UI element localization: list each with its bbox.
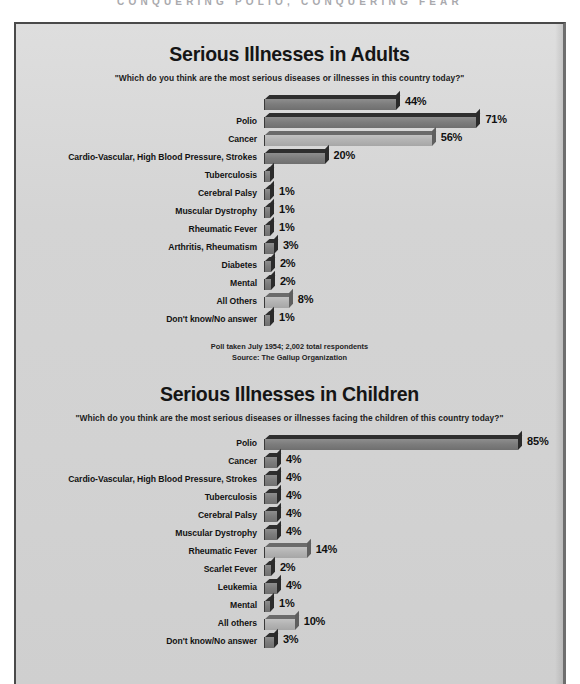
bar-row-label: Tuberculosis — [16, 492, 264, 502]
source-line-org: Source: The Gallup Organization — [16, 353, 563, 364]
bar-plot-area: 1% — [264, 184, 563, 202]
bar-segment — [264, 243, 274, 254]
bar-row: Tuberculosis4% — [16, 488, 563, 506]
bar-plot-area: 2% — [264, 274, 563, 292]
bar-row-label: Cerebral Palsy — [16, 510, 264, 520]
bar-row-label: Diabetes — [16, 260, 264, 270]
bar-row: Tuberculosis — [16, 166, 563, 184]
bar-row: Arthritis, Rheumatism3% — [16, 238, 563, 256]
bar-plot-area: 4% — [264, 452, 563, 470]
bar-row: Muscular Dystrophy4% — [16, 524, 563, 542]
bar-rows: 44%Polio71%Cancer56%Cardio-Vascular, Hig… — [16, 94, 563, 328]
bar-row: Cerebral Palsy1% — [16, 184, 563, 202]
chart-serious-illnesses-children: Serious Illnesses in Children "Which do … — [16, 382, 563, 650]
bar-segment — [264, 117, 476, 128]
bar-row: All Others8% — [16, 292, 563, 310]
bar-segment — [264, 529, 277, 540]
bar-plot-area: 4% — [264, 578, 563, 596]
bar-row-label: Mental — [16, 600, 264, 610]
bar-plot-area: 2% — [264, 256, 563, 274]
bar-segment — [264, 511, 277, 522]
bar-value-label: 2% — [280, 275, 296, 287]
bar-row-label: Muscular Dystrophy — [16, 206, 264, 216]
bar-segment — [264, 261, 271, 272]
bar-value-label: 10% — [304, 615, 325, 627]
bar-row: Polio85% — [16, 434, 563, 452]
bar-row: Cardio-Vascular, High Blood Pressure, St… — [16, 148, 563, 166]
bar-segment — [264, 457, 277, 468]
bar-plot-area: 4% — [264, 488, 563, 506]
bar-plot-area: 71% — [264, 112, 563, 130]
bar-segment — [264, 439, 518, 450]
bar-row: All others10% — [16, 614, 563, 632]
bar-row: Muscular Dystrophy1% — [16, 202, 563, 220]
bar-row-label: Cardio-Vascular, High Blood Pressure, St… — [16, 152, 264, 162]
bar-row: Cancer4% — [16, 452, 563, 470]
bar-plot-area: 2% — [264, 560, 563, 578]
bar-plot-area: 1% — [264, 202, 563, 220]
bar-segment — [264, 189, 270, 200]
bar-plot-area: 8% — [264, 292, 563, 310]
source-line-poll: Poll taken July 1954; 2,002 total respon… — [16, 342, 563, 353]
bar-plot-area: 14% — [264, 542, 563, 560]
chart-serious-illnesses-adults: Serious Illnesses in Adults "Which do yo… — [16, 42, 563, 363]
bar-value-label: 1% — [279, 203, 295, 215]
bar-segment — [264, 637, 274, 648]
bar-plot-area: 10% — [264, 614, 563, 632]
bar-row-label: Polio — [16, 116, 264, 126]
bar-plot-area: 4% — [264, 506, 563, 524]
bar-row: Don't know/No answer3% — [16, 632, 563, 650]
bar-value-label: 2% — [280, 257, 296, 269]
bar-row-label: Cerebral Palsy — [16, 188, 264, 198]
bar-plot-area: 44% — [264, 94, 563, 112]
bar-segment — [264, 297, 289, 308]
bar-row-label: Arthritis, Rheumatism — [16, 242, 264, 252]
bar-value-label: 4% — [286, 453, 302, 465]
bar-row-label: Leukemia — [16, 582, 264, 592]
bar-segment — [264, 225, 270, 236]
bar-value-label: 71% — [485, 113, 506, 125]
bar-value-label: 1% — [279, 221, 295, 233]
bar-segment — [264, 279, 271, 290]
bar-segment — [264, 135, 432, 146]
bar-plot-area: 4% — [264, 470, 563, 488]
bar-segment — [264, 547, 307, 558]
source-note: Poll taken July 1954; 2,002 total respon… — [16, 342, 563, 363]
bar-plot-area: 1% — [264, 220, 563, 238]
bar-plot-area: 20% — [264, 148, 563, 166]
chart-title: Serious Illnesses in Adults — [35, 42, 544, 66]
chart-subtitle: "Which do you think are the most serious… — [16, 413, 563, 423]
bar-value-label: 20% — [334, 149, 355, 161]
page-plate: Serious Illnesses in Adults "Which do yo… — [14, 22, 566, 684]
bar-row: Scarlet Fever2% — [16, 560, 563, 578]
bar-plot-area: 56% — [264, 130, 563, 148]
bar-value-label: 14% — [316, 543, 337, 555]
bar-row-label: Scarlet Fever — [16, 564, 264, 574]
bar-value-label: 3% — [283, 239, 299, 251]
bar-value-label: 1% — [279, 597, 295, 609]
bar-row-label: Rheumatic Fever — [16, 224, 264, 234]
bar-value-label: 8% — [298, 293, 314, 305]
bar-plot-area: 3% — [264, 632, 563, 650]
bar-value-label: 4% — [286, 471, 302, 483]
bar-row: Mental1% — [16, 596, 563, 614]
bar-segment — [264, 315, 270, 326]
bar-row-label: All Others — [16, 296, 264, 306]
bar-plot-area: 1% — [264, 596, 563, 614]
bar-row: Rheumatic Fever1% — [16, 220, 563, 238]
bar-row-label: Tuberculosis — [16, 170, 264, 180]
bar-segment — [264, 583, 277, 594]
bar-row-label: Mental — [16, 278, 264, 288]
bar-value-label: 44% — [405, 95, 426, 107]
bar-value-label: 1% — [279, 311, 295, 323]
bar-row: 44% — [16, 94, 563, 112]
bar-plot-area — [264, 166, 563, 184]
bar-row-label: Rheumatic Fever — [16, 546, 264, 556]
bar-row-label: Cancer — [16, 134, 264, 144]
bar-rows: Polio85%Cancer4%Cardio-Vascular, High Bl… — [16, 434, 563, 650]
bar-row: Don't know/No answer1% — [16, 310, 563, 328]
bar-segment — [264, 475, 277, 486]
bar-segment — [264, 171, 270, 182]
bar-value-label: 4% — [286, 507, 302, 519]
bar-row-label: All others — [16, 618, 264, 628]
